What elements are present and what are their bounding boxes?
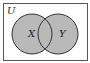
set-x-label: X [27, 28, 36, 39]
universe-label: U [7, 5, 16, 16]
venn-diagram: U X Y [0, 0, 90, 63]
